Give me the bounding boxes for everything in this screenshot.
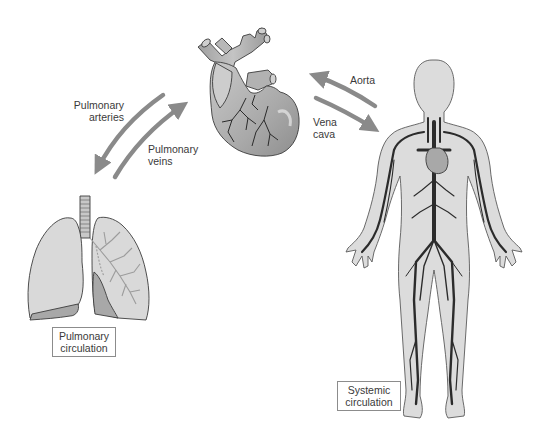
- systemic-circulation-box: Systemic circulation: [337, 381, 401, 411]
- circulation-diagram: [0, 0, 552, 433]
- systemic-circulation-line2: circulation: [342, 396, 396, 408]
- pulmonary-arteries-label: Pulmonary arteries: [62, 99, 124, 123]
- pulmonary-veins-line2: veins: [148, 155, 198, 167]
- pulmonary-circulation-box: Pulmonary circulation: [52, 327, 116, 357]
- heart-illustration: [198, 28, 299, 156]
- vena-cava-label: Vena cava: [313, 116, 337, 140]
- vena-cava-line1: Vena: [313, 116, 337, 128]
- pulmonary-veins-line1: Pulmonary: [148, 143, 198, 155]
- lungs-illustration: [28, 196, 149, 320]
- human-body-vascular-illustration: [346, 60, 522, 418]
- pulmonary-arteries-line2: arteries: [62, 111, 124, 123]
- pulmonary-circulation-line2: circulation: [57, 342, 111, 354]
- aorta-label: Aorta: [350, 74, 375, 86]
- aorta-text: Aorta: [350, 74, 375, 86]
- pulmonary-arteries-line1: Pulmonary: [62, 99, 124, 111]
- systemic-circulation-line1: Systemic: [342, 384, 396, 396]
- vena-cava-line2: cava: [313, 128, 337, 140]
- pulmonary-veins-label: Pulmonary veins: [148, 143, 198, 167]
- pulmonary-circulation-line1: Pulmonary: [57, 330, 111, 342]
